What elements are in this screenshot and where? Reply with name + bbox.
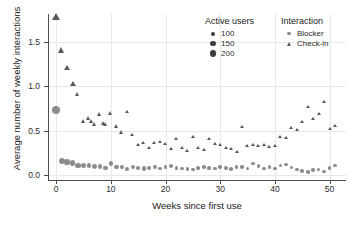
y-axis-tick-label: 1.0 <box>14 81 40 91</box>
legend-interaction-row[interactable]: Blocker <box>281 29 329 38</box>
legend-interaction-row[interactable]: Check-in <box>281 39 329 48</box>
data-point-check-in <box>103 122 107 126</box>
data-point-blocker <box>229 167 233 171</box>
legend-circle-icon <box>205 50 221 56</box>
data-point-blocker <box>311 168 315 172</box>
y-axis-tick <box>44 42 48 43</box>
data-point-check-in <box>64 65 70 70</box>
data-point-check-in <box>92 122 96 126</box>
y-axis-tick <box>44 131 48 132</box>
data-point-check-in <box>191 135 195 138</box>
data-point-blocker <box>306 170 310 174</box>
legend-active-users-label: 200 <box>221 49 234 58</box>
data-point-check-in <box>311 117 315 120</box>
legend-interaction-label: Blocker <box>297 29 324 38</box>
data-point-check-in <box>163 142 167 145</box>
legend-active-users-row[interactable]: 100 <box>205 29 254 38</box>
data-point-blocker <box>218 165 222 169</box>
data-point-check-in <box>52 13 60 20</box>
data-point-check-in <box>81 119 85 123</box>
data-point-check-in <box>75 92 79 96</box>
data-point-check-in <box>322 100 326 103</box>
data-point-blocker <box>98 164 103 169</box>
data-point-check-in <box>218 143 222 146</box>
gridline-horizontal <box>48 131 346 132</box>
legend-interaction-title: Interaction <box>281 16 329 26</box>
data-point-blocker <box>224 166 228 170</box>
data-point-check-in <box>267 145 271 148</box>
data-point-check-in <box>306 105 310 108</box>
data-point-check-in <box>185 149 189 152</box>
data-point-blocker <box>120 165 124 169</box>
legend-interaction-rows: BlockerCheck-in <box>281 29 329 48</box>
data-point-check-in <box>245 144 249 147</box>
data-point-blocker <box>153 165 157 169</box>
gridline-vertical <box>166 14 167 180</box>
data-point-check-in <box>70 81 76 86</box>
data-point-blocker <box>295 168 299 172</box>
gridline-vertical <box>330 14 331 180</box>
x-axis-tick-label: 40 <box>262 184 288 194</box>
data-point-check-in <box>333 124 337 127</box>
x-axis-tick-label: 20 <box>153 184 179 194</box>
data-point-check-in <box>328 127 332 130</box>
data-point-check-in <box>97 112 101 116</box>
data-point-check-in <box>169 147 173 150</box>
data-point-check-in <box>300 120 304 123</box>
data-point-check-in <box>251 143 255 146</box>
data-point-check-in <box>58 47 64 53</box>
gridline-horizontal <box>48 175 346 176</box>
data-point-blocker <box>75 163 80 168</box>
data-point-check-in <box>108 111 112 115</box>
legend-active-users-rows: 100150200 <box>205 29 254 58</box>
legend-circle-icon <box>205 32 221 36</box>
data-point-check-in <box>180 146 184 149</box>
x-axis-tick-label: 50 <box>317 184 343 194</box>
data-point-check-in <box>119 130 123 134</box>
y-axis-line <box>48 14 49 180</box>
data-point-check-in <box>130 133 134 136</box>
legend-active-users-row[interactable]: 200 <box>205 49 254 58</box>
legend-interaction-label: Check-in <box>297 39 329 48</box>
data-point-check-in <box>213 142 217 145</box>
scatter-chart: Weeks since first use Average number of … <box>0 0 360 232</box>
y-axis-tick <box>44 175 48 176</box>
data-point-check-in <box>202 148 206 151</box>
data-point-check-in <box>147 146 151 149</box>
data-point-blocker <box>333 164 337 168</box>
data-point-check-in <box>158 140 162 143</box>
gridline-vertical <box>275 14 276 180</box>
data-point-check-in <box>207 137 211 140</box>
data-point-check-in <box>141 141 145 144</box>
x-axis-tick-label: 30 <box>207 184 233 194</box>
x-axis-tick-label: 10 <box>98 184 124 194</box>
data-point-check-in <box>125 110 129 113</box>
data-point-check-in <box>284 136 288 139</box>
legend-triangle-icon <box>281 42 297 46</box>
y-axis-tick-label: 0.0 <box>14 170 40 180</box>
legend-active-users-label: 150 <box>221 39 234 48</box>
data-point-blocker <box>207 166 211 170</box>
data-point-check-in <box>240 125 244 128</box>
legend-active-users-title: Active users <box>205 16 254 26</box>
y-axis-tick <box>44 86 48 87</box>
data-point-blocker <box>235 165 239 169</box>
data-point-blocker <box>273 167 277 171</box>
data-point-blocker <box>175 166 179 170</box>
data-point-check-in <box>262 143 266 146</box>
data-point-blocker <box>300 169 304 173</box>
legend-active-users-row[interactable]: 150 <box>205 39 254 48</box>
data-point-blocker <box>257 164 261 168</box>
data-point-blocker <box>103 166 108 171</box>
gridline-vertical <box>56 14 57 180</box>
x-axis-title: Weeks since first use <box>48 200 346 211</box>
data-point-blocker <box>196 166 200 170</box>
data-point-check-in <box>295 128 299 131</box>
data-point-check-in <box>114 124 118 128</box>
gridline-vertical <box>111 14 112 180</box>
legend-interaction: Interaction BlockerCheck-in <box>281 16 329 49</box>
data-point-blocker <box>202 165 206 169</box>
data-point-blocker <box>186 167 190 171</box>
data-point-blocker <box>284 163 288 167</box>
data-point-check-in <box>235 150 239 153</box>
